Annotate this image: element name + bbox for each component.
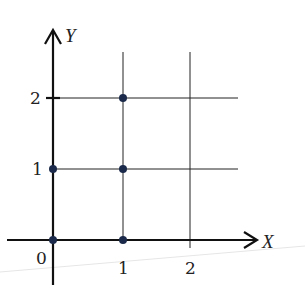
x-axis-label: X bbox=[261, 231, 275, 252]
origin-label: 0 bbox=[36, 248, 47, 268]
x-tick-label-1: 1 bbox=[118, 258, 129, 278]
point-1-2 bbox=[119, 94, 127, 102]
y-tick-label-2: 2 bbox=[30, 88, 41, 108]
point-0-1 bbox=[49, 165, 57, 173]
tick-labels: 2 1 0 1 2 bbox=[30, 88, 196, 278]
point-1-0 bbox=[119, 236, 127, 244]
y-tick-label-1: 1 bbox=[32, 159, 43, 179]
point-1-1 bbox=[119, 165, 127, 173]
axes bbox=[7, 30, 257, 285]
grid bbox=[46, 52, 238, 248]
y-axis-label: Y bbox=[65, 25, 78, 46]
point-0-0 bbox=[49, 236, 57, 244]
lattice-diagram: 2 1 0 1 2 Y X bbox=[0, 0, 305, 305]
x-tick-label-2: 2 bbox=[185, 258, 196, 278]
